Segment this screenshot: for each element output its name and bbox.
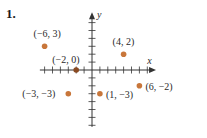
data-point: [137, 83, 143, 89]
data-point: [66, 91, 72, 97]
data-point: [73, 67, 79, 73]
axes: xy: [40, 9, 156, 127]
y-axis-label: y: [96, 9, 102, 20]
data-point: [121, 51, 127, 57]
y-arrow-icon: [89, 12, 95, 19]
point-label: (−3, −3): [22, 88, 55, 100]
coordinate-plane: xy (−6, 3)(4, 2)(−2, 0)(6, −2)(−3, −3)(1…: [0, 0, 207, 138]
point-label: (−6, 3): [34, 28, 61, 40]
point-label: (1, −3): [106, 89, 133, 101]
point-label: (6, −2): [145, 81, 172, 93]
point-label: (−2, 0): [52, 54, 79, 66]
point-label: (4, 2): [113, 36, 135, 48]
x-axis-label: x: [146, 55, 152, 66]
x-arrow-icon: [149, 67, 156, 73]
data-point: [97, 91, 103, 97]
data-point: [42, 44, 48, 50]
